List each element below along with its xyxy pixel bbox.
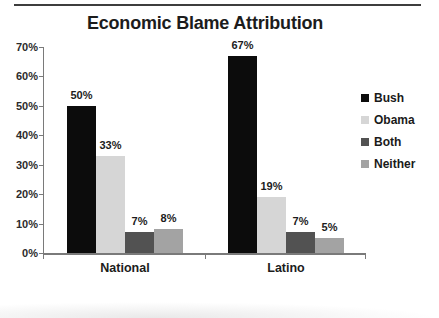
y-axis-tick-label: 70% [6,41,38,53]
y-axis-tick-label: 20% [6,188,38,200]
y-axis-tick-label: 0% [6,247,38,259]
x-axis-tick-mark [365,254,366,259]
y-axis-tick-mark [39,194,43,195]
x-axis-tick-mark [205,254,206,259]
bar-bush-national [67,106,96,253]
legend-item-obama: Obama [361,113,415,127]
bar-obama-national [96,156,125,253]
legend-label: Neither [374,157,415,171]
y-axis-tick-mark [39,224,43,225]
legend-label: Obama [374,113,415,127]
legend-swatch-icon [361,160,369,168]
y-axis-tick-mark [39,106,43,107]
legend-swatch-icon [361,94,369,102]
legend-swatch-icon [361,138,369,146]
legend-item-bush: Bush [361,91,415,105]
category-label-latino: Latino [231,261,341,275]
bar-data-label: 8% [149,212,189,225]
legend-label: Both [374,135,401,149]
category-label-national: National [70,261,180,275]
bar-data-label: 33% [91,139,131,152]
y-axis-tick-mark [39,47,43,48]
bar-neither-national [154,229,183,253]
y-axis-tick-label: 60% [6,70,38,82]
legend-swatch-icon [361,116,369,124]
legend: BushObamaBothNeither [361,91,415,179]
x-axis-tick-mark [43,254,44,259]
y-axis-tick-mark [39,135,43,136]
bar-data-label: 19% [252,180,292,193]
bar-both-national [125,232,154,253]
y-axis-tick-mark [39,165,43,166]
legend-item-neither: Neither [361,157,415,171]
page: Economic Blame Attribution 0%10%20%30%40… [0,0,439,318]
y-axis-tick-label: 10% [6,218,38,230]
legend-item-both: Both [361,135,415,149]
bar-data-label: 50% [62,89,102,102]
y-axis-tick-mark [39,76,43,77]
y-axis-tick-label: 40% [6,129,38,141]
chart-title: Economic Blame Attribution [0,13,410,34]
bar-bush-latino [228,56,257,253]
bar-neither-latino [315,238,344,253]
y-axis-tick-label: 30% [6,159,38,171]
y-axis-tick-label: 50% [6,100,38,112]
bar-data-label: 5% [310,221,350,234]
top-rule [14,4,421,6]
legend-label: Bush [374,91,404,105]
bar-both-latino [286,232,315,253]
scan-artifact [0,302,439,318]
bar-data-label: 67% [223,39,263,52]
y-axis-line [43,47,44,254]
